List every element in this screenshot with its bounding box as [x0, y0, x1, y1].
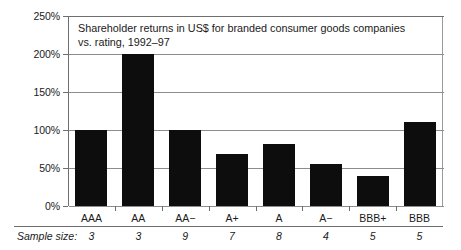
category-label-A-minus: A−: [302, 212, 349, 224]
sample-size-A-plus: 7: [209, 230, 256, 242]
category-label-BBB: BBB: [396, 212, 443, 224]
sample-size-A-minus: 4: [302, 230, 349, 242]
bar-A-minus: [310, 164, 342, 206]
sample-size-separator: [14, 226, 443, 227]
bar-AA-minus: [169, 130, 201, 206]
category-tick-7: [396, 206, 397, 211]
sample-size-AA-minus: 9: [162, 230, 209, 242]
sample-size-AA: 3: [115, 230, 162, 242]
chart-figure: 250% 200% 150% 100% 50% 0% AAA AA AA− A+…: [0, 0, 461, 250]
sample-size-AAA: 3: [68, 230, 115, 242]
category-tick-5: [302, 206, 303, 211]
bar-BBB-plus: [357, 176, 389, 206]
category-tick-6: [349, 206, 350, 211]
y-axis-label-50: 50%: [8, 162, 60, 174]
category-tick-1: [115, 206, 116, 211]
y-axis-label-150: 150%: [8, 86, 60, 98]
y-tick-mark-0: [63, 206, 68, 207]
category-label-A: A: [256, 212, 303, 224]
category-label-AA: AA: [115, 212, 162, 224]
sample-size-A: 8: [256, 230, 303, 242]
category-label-A-plus: A+: [209, 212, 256, 224]
bar-AA: [122, 54, 154, 206]
bar-BBB: [404, 122, 436, 206]
y-axis-label-250: 250%: [8, 10, 60, 22]
category-label-AA-minus: AA−: [162, 212, 209, 224]
category-label-AAA: AAA: [68, 212, 115, 224]
chart-title-line-2: vs. rating, 1992–97: [78, 35, 418, 49]
gridline-0: [69, 206, 444, 207]
bar-A-plus: [216, 154, 248, 206]
chart-title-line-1: Shareholder returns in US$ for branded c…: [78, 21, 418, 35]
category-tick-4: [256, 206, 257, 211]
y-axis-label-100: 100%: [8, 124, 60, 136]
category-tick-3: [209, 206, 210, 211]
y-axis-label-200: 200%: [8, 48, 60, 60]
chart-title: Shareholder returns in US$ for branded c…: [78, 21, 418, 49]
sample-size-BBB: 5: [396, 230, 443, 242]
sample-size-BBB-plus: 5: [349, 230, 396, 242]
bar-A: [263, 144, 295, 206]
category-label-BBB-plus: BBB+: [349, 212, 396, 224]
category-tick-2: [162, 206, 163, 211]
y-axis-label-0: 0%: [8, 200, 60, 212]
bar-AAA: [75, 130, 107, 206]
